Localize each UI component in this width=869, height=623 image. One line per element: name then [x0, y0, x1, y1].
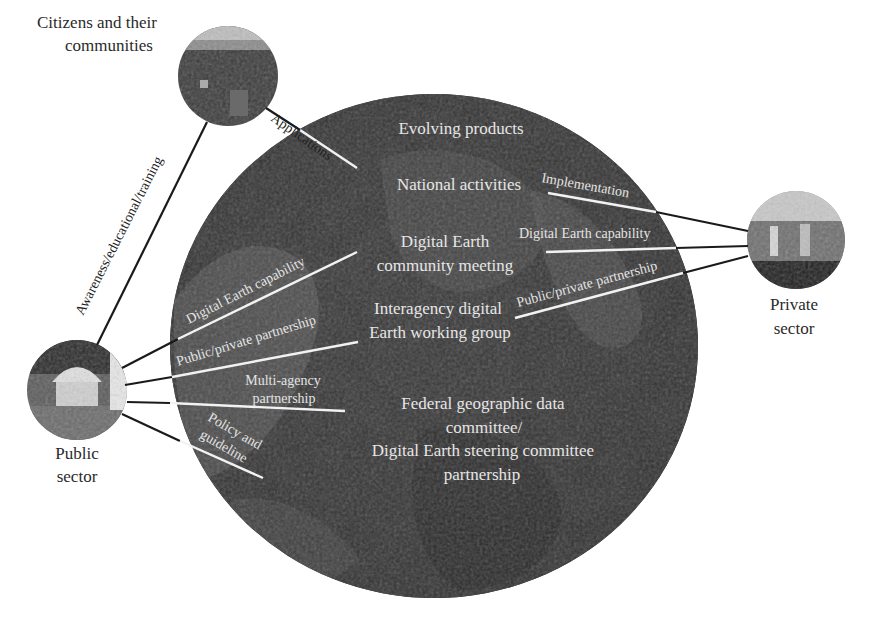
private-sector-photo [747, 191, 845, 291]
label-fgdc: Federal geographic data [401, 394, 565, 413]
label-community-meeting: Digital Earth [401, 232, 490, 251]
label-fgdc-3: Digital Earth steering committee [372, 441, 594, 460]
public-sector-label: Public [55, 444, 99, 463]
label-national-activities: National activities [397, 175, 521, 194]
edge-label-multi-agency: Multi-agency [245, 373, 320, 388]
citizens-label: Citizens and their [37, 13, 157, 32]
citizens-label-2: communities [65, 36, 153, 55]
label-working-group-2: Earth working group [369, 323, 511, 342]
label-community-meeting-2: community meeting [377, 256, 514, 275]
edge-label-multi-agency-2: partnership [253, 391, 316, 406]
citizens-photo [178, 26, 278, 126]
private-sector-label: Private [770, 295, 818, 314]
public-sector-label-2: sector [57, 467, 98, 486]
label-fgdc-2: committee/ [446, 418, 523, 437]
digital-earth-diagram: Citizens and their communities Private s… [0, 0, 869, 623]
private-sector-label-2: sector [774, 319, 815, 338]
label-working-group: Interagency digital [374, 299, 502, 318]
label-fgdc-4: partnership [444, 465, 520, 484]
edge-label-private-capability: Digital Earth capability [519, 226, 650, 241]
public-sector-photo [27, 340, 127, 440]
label-evolving-products: Evolving products [398, 119, 523, 138]
